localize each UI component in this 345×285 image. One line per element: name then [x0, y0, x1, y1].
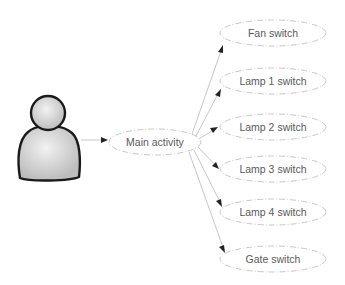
use-case-diagram: Main activity Fan switch Lamp 1 switch L… [0, 0, 345, 285]
node-label: Lamp 3 switch [239, 163, 306, 175]
edge-main-to-lamp3 [198, 147, 219, 169]
node-label: Fan switch [248, 27, 298, 39]
edge-main-to-fan [192, 45, 223, 134]
node-label: Lamp 4 switch [239, 206, 306, 218]
node-label: Lamp 2 switch [239, 121, 306, 133]
node-label: Main activity [126, 136, 185, 148]
node-gate-switch[interactable]: Gate switch [220, 246, 326, 272]
node-lamp2-switch[interactable]: Lamp 2 switch [220, 114, 326, 140]
node-fan-switch[interactable]: Fan switch [220, 20, 326, 46]
node-label: Gate switch [246, 253, 301, 265]
node-label: Lamp 1 switch [239, 75, 306, 87]
edge-actor-to-main [81, 137, 108, 143]
node-lamp3-switch[interactable]: Lamp 3 switch [220, 156, 326, 182]
node-lamp4-switch[interactable]: Lamp 4 switch [220, 199, 326, 225]
actor-person-icon [19, 96, 80, 181]
edge-main-to-lamp2 [199, 127, 218, 139]
node-lamp1-switch[interactable]: Lamp 1 switch [220, 68, 326, 94]
node-main-activity[interactable]: Main activity [109, 129, 201, 155]
